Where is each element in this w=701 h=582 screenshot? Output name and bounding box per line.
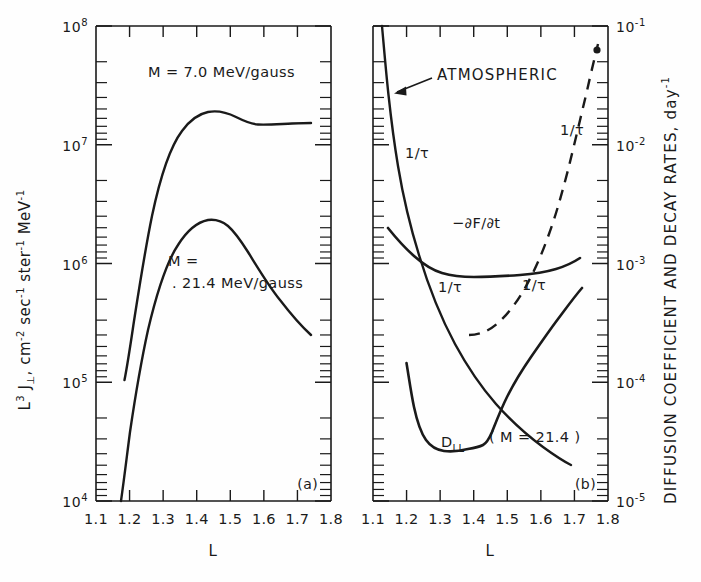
y-tick-a-2: 10 — [62, 257, 81, 273]
panel-a: 108 107 106 105 104 1.1 1.2 1.3 1.4 1.5 … — [15, 17, 343, 560]
panel-b-tau-lower-right: 1/τ — [522, 277, 546, 293]
y-tick-a-4: 10 — [62, 494, 81, 510]
x-tick-a-2: 1.3 — [151, 511, 175, 527]
svg-text:107: 107 — [62, 136, 88, 154]
x-tick-a-5: 1.6 — [252, 511, 276, 527]
svg-text:108: 108 — [62, 17, 88, 35]
svg-text:DIFFUSION COEFFICIENT AND D: DIFFUSION COEFFICIENT AND DECAY RATES, d… — [660, 76, 680, 504]
x-tick-a-3: 1.4 — [185, 511, 209, 527]
figure-svg: 108 107 106 105 104 1.1 1.2 1.3 1.4 1.5 … — [0, 0, 701, 582]
curve-dll — [407, 288, 583, 451]
x-tick-b-5: 1.6 — [529, 511, 553, 527]
ylab-e1: -2 — [15, 330, 26, 341]
panel-b-tau-upper-left: 1/τ — [405, 145, 429, 161]
ylab-L: L — [16, 402, 34, 411]
x-tick-b-0: 1.1 — [361, 511, 385, 527]
panel-b-dll-label-sub: LL — [453, 443, 465, 454]
ylab-t3: MeV — [16, 200, 34, 239]
y-tick-b-3-exp: -4 — [635, 373, 646, 384]
panel-a-label-m214-l2: . 21.4 MeV/gauss — [172, 275, 303, 291]
svg-text:10-2: 10-2 — [616, 136, 646, 154]
panel-a-label-m214-l1: M = — [168, 253, 198, 269]
panel-b-x-axis-title: L — [486, 542, 495, 560]
atmospheric-arrow-head — [394, 87, 407, 96]
ylab-t1: sec — [16, 298, 34, 330]
y-tick-b-2-exp: -3 — [635, 255, 646, 266]
ylab-L-exp: 3 — [15, 395, 26, 402]
panel-a-y-tick-labels: 108 107 106 105 104 — [62, 17, 88, 510]
ylab-e3: -1 — [15, 240, 26, 251]
panel-b-tau-lower-left: 1/τ — [438, 279, 462, 295]
panel-b-dll-mass-label: ( M = 21.4 ) — [489, 429, 581, 445]
panel-a-x-tick-labels: 1.1 1.2 1.3 1.4 1.5 1.6 1.7 1.8 — [84, 511, 343, 527]
figure-container: 108 107 106 105 104 1.1 1.2 1.3 1.4 1.5 … — [0, 0, 701, 582]
panel-b-y-axis-title-text: DIFFUSION COEFFICIENT AND DECAY RATES, d… — [662, 88, 680, 504]
panel-b-atmospheric-label: ATMOSPHERIC — [437, 66, 558, 84]
x-tick-a-0: 1.1 — [84, 511, 108, 527]
y-tick-a-4-exp: 4 — [81, 492, 88, 503]
ylab-J-sub: ⊥ — [25, 375, 36, 384]
data-point-marker — [593, 46, 600, 53]
ylab-e2: -1 — [15, 287, 26, 298]
panel-b: 10-1 10-2 10-3 10-4 10-5 1.1 1.2 1.3 1.4… — [361, 17, 680, 560]
panel-a-label-m70: M = 7.0 MeV/gauss — [148, 64, 295, 80]
panel-b-y-tick-labels: 10-1 10-2 10-3 10-4 10-5 — [616, 17, 646, 510]
y-tick-a-3: 10 — [62, 375, 81, 391]
svg-text:104: 104 — [62, 492, 88, 510]
svg-text:10-3: 10-3 — [616, 255, 646, 273]
panel-a-y-axis-title: L3 J⊥, cm-2 sec-1 ster-1 MeV-1 — [15, 189, 36, 410]
panel-b-label: (b) — [575, 476, 596, 492]
x-tick-a-7: 1.8 — [319, 511, 343, 527]
y-tick-a-2-exp: 6 — [81, 255, 88, 266]
y-tick-a-0-exp: 8 — [81, 17, 88, 28]
x-tick-b-2: 1.3 — [428, 511, 452, 527]
svg-text:10-5: 10-5 — [616, 492, 646, 510]
panel-b-tau-upper-right: 1/τ — [560, 122, 584, 138]
panel-b-dll-label-main: D — [441, 434, 453, 450]
y-tick-b-4: 10 — [616, 494, 635, 510]
x-tick-b-3: 1.4 — [462, 511, 486, 527]
panel-b-x-tick-labels: 1.1 1.2 1.3 1.4 1.5 1.6 1.7 1.8 — [361, 511, 620, 527]
panel-a-x-ticks — [130, 26, 298, 501]
x-tick-a-1: 1.2 — [118, 511, 142, 527]
y-tick-a-1-exp: 7 — [81, 136, 88, 147]
ylab-t2: ster — [16, 250, 34, 287]
curve-dfdt — [388, 228, 580, 277]
x-tick-b-1: 1.2 — [395, 511, 419, 527]
y-tick-b-4-exp: -5 — [635, 492, 646, 503]
y-tick-a-0: 10 — [62, 19, 81, 35]
panel-b-y-axis-title: DIFFUSION COEFFICIENT AND DECAY RATES, d… — [660, 76, 680, 504]
curve-m214 — [121, 220, 311, 501]
y-tick-a-1: 10 — [62, 138, 81, 154]
panel-b-dfdt-label: −∂F/∂t — [452, 215, 500, 231]
y-tick-b-0-exp: -1 — [635, 17, 646, 28]
svg-text:10-4: 10-4 — [616, 373, 646, 391]
panel-a-x-axis-title: L — [209, 542, 218, 560]
x-tick-b-6: 1.7 — [562, 511, 586, 527]
x-tick-b-7: 1.8 — [596, 511, 620, 527]
svg-text:106: 106 — [62, 255, 88, 273]
svg-text:105: 105 — [62, 373, 88, 391]
x-tick-a-4: 1.5 — [218, 511, 242, 527]
panel-a-label: (a) — [297, 476, 318, 492]
svg-text:10-1: 10-1 — [616, 17, 646, 35]
y-tick-a-3-exp: 5 — [81, 373, 88, 384]
panel-b-y-axis-title-exp: -1 — [660, 76, 671, 88]
y-tick-b-2: 10 — [616, 257, 635, 273]
y-tick-b-0: 10 — [616, 19, 635, 35]
x-tick-a-6: 1.7 — [285, 511, 309, 527]
ylab-e4: -1 — [15, 189, 26, 200]
ylab-rest: , cm — [16, 341, 34, 375]
y-tick-b-3: 10 — [616, 375, 635, 391]
x-tick-b-4: 1.5 — [495, 511, 519, 527]
y-tick-b-1: 10 — [616, 138, 635, 154]
svg-text:L3 J⊥, cm-2 sec-1 ster-1 MeV-1: L3 J⊥, cm-2 sec-1 ster-1 MeV-1 — [15, 189, 36, 410]
y-tick-b-1-exp: -2 — [635, 136, 646, 147]
curve-m70 — [125, 111, 312, 380]
curve-tau-solid — [382, 26, 571, 465]
